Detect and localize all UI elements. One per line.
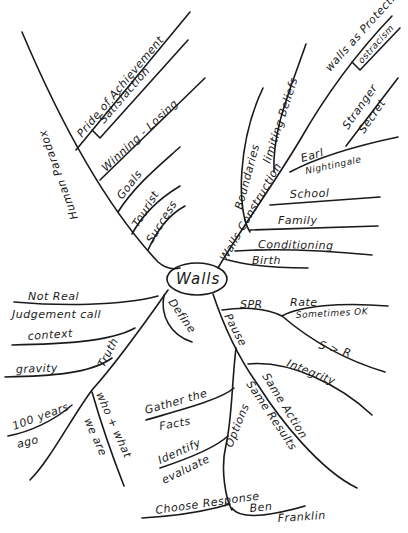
label-options: Options — [223, 402, 252, 449]
label-ago: ago — [16, 433, 40, 451]
label-school: School — [290, 187, 330, 201]
label-facts: Facts — [158, 415, 191, 433]
center-label: Walls — [176, 270, 220, 288]
branch-pause: Pause SPR Rate Sometimes OK S > R Integr… — [142, 294, 388, 525]
label-integrity: Integrity — [285, 357, 337, 388]
label-conditioning: Conditioning — [258, 238, 334, 252]
label-choose-response: Choose Response — [155, 489, 261, 516]
branch-define: Define — [163, 295, 198, 342]
label-franklin: Franklin — [277, 509, 326, 525]
label-spr: SPR — [240, 298, 263, 311]
label-judgement-call: Judgement call — [10, 308, 101, 321]
label-birth: Birth — [252, 254, 281, 267]
branch-walls-construction: Walls Construction Boundaries limiting B… — [217, 0, 407, 268]
label-s-to-r: S > R — [317, 338, 353, 360]
label-rate: Rate — [290, 296, 317, 309]
label-not-real: Not Real — [28, 290, 79, 303]
branch-human-paradox: Human Paradox Pride of Achievement Satis… — [22, 12, 205, 269]
label-100-years: 100 years — [11, 400, 71, 432]
label-define: Define — [166, 296, 199, 335]
label-pause: Pause — [221, 311, 249, 348]
label-limiting-beliefs: limiting Beliefs — [260, 76, 300, 165]
label-ben: Ben — [249, 500, 273, 515]
label-context: context — [27, 327, 73, 343]
label-family: Family — [278, 214, 317, 227]
branch-truth: Truth Not Real Judgement call context gr… — [5, 290, 168, 486]
label-gravity: gravity — [16, 362, 59, 376]
label-gather-the: Gather the — [143, 387, 208, 417]
mind-map: Walls Human Paradox Pride of Achievement… — [0, 0, 408, 533]
